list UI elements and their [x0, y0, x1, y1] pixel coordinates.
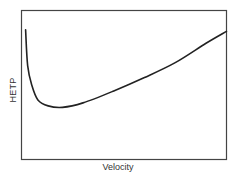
hetp-curve: [26, 30, 227, 108]
x-axis-label-wrap: Velocity: [0, 162, 238, 172]
plot-frame: [22, 11, 227, 160]
y-axis-label: HETP: [8, 77, 18, 102]
chart: [0, 0, 238, 181]
x-axis-label: Velocity: [102, 162, 133, 172]
